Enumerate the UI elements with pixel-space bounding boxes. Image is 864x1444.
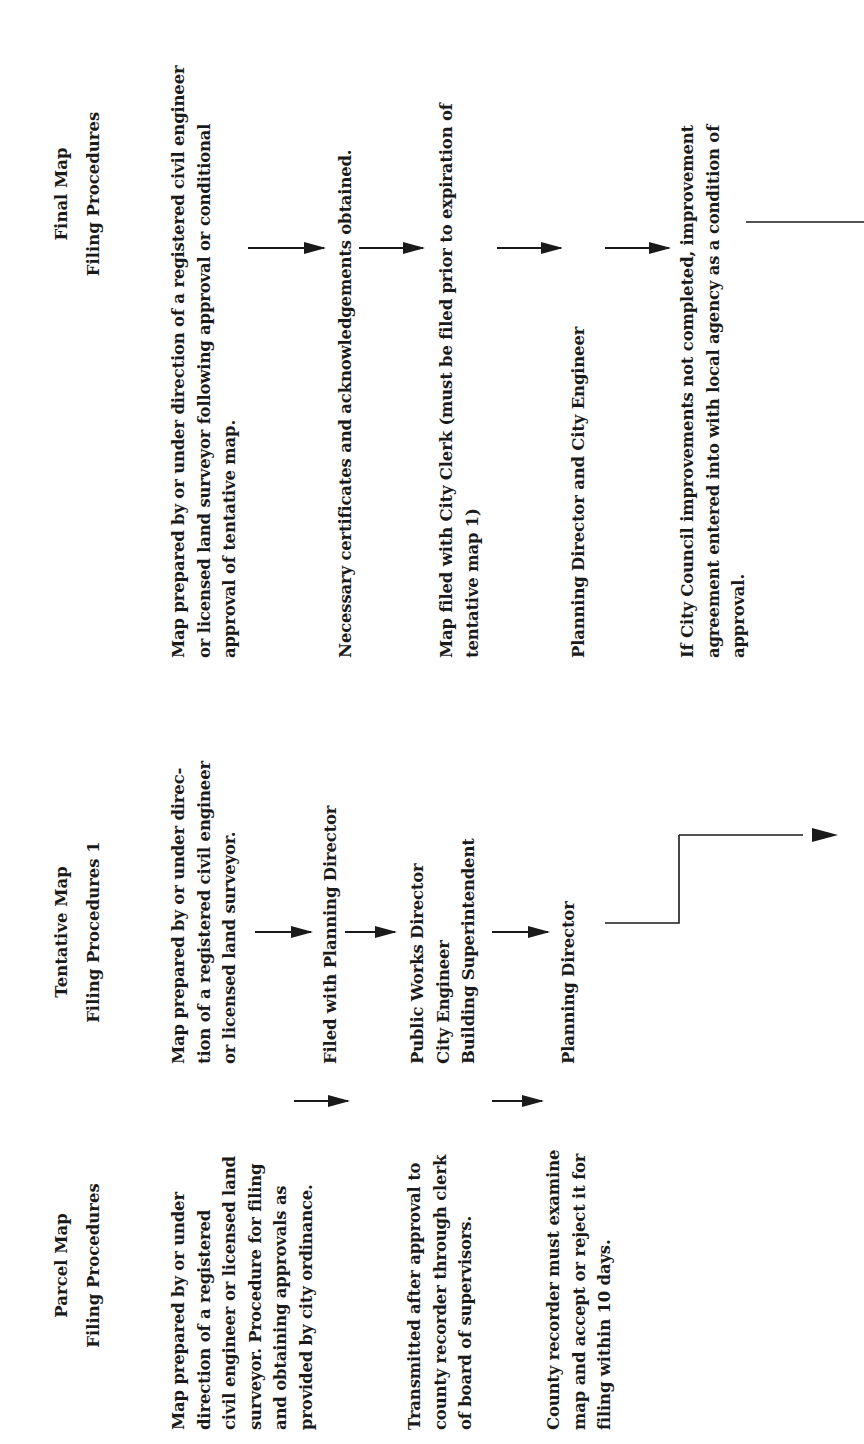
arrow-final-3-to-4 [497, 247, 561, 249]
flowchart-page: Parcel Map Filing Procedures Map prepare… [0, 0, 864, 1444]
final-step-4: Planning Director and City Engineer [566, 0, 592, 658]
final-map-title: Final Map [50, 84, 74, 304]
arrow-final-4-to-5 [605, 247, 669, 249]
arrow-final-1-to-2 [248, 247, 324, 249]
final-step-2: Necessary certificates and acknowledgeme… [333, 0, 359, 658]
arrow-final-2-to-3 [359, 247, 423, 249]
final-step-3: Map filed with City Clerk (must be filed… [434, 0, 485, 658]
final-map-header: Final Map Filing Procedures [50, 84, 106, 304]
final-map-subtitle: Filing Procedures [82, 84, 106, 304]
final-step-1: Map prepared by or under direction of a … [166, 0, 243, 658]
final-step-5: If City Council improvements not complet… [675, 0, 752, 658]
